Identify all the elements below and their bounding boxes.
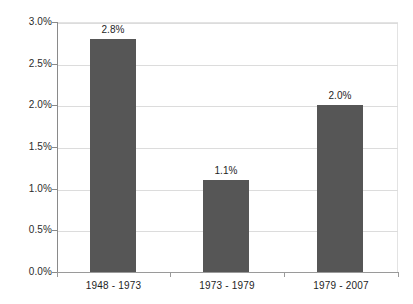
y-axis-label-1.0: 1.0% xyxy=(29,184,52,194)
bar-chart: 3.0% 2.5% 2.0% 1.5% 1.0% 0.5% 0.0% 2.8% … xyxy=(0,0,413,304)
bar-value-label-1973-1979: 1.1% xyxy=(203,165,249,176)
x-tick-mark-3 xyxy=(398,272,399,277)
bar-value-label-1979-2007: 2.0% xyxy=(317,90,363,101)
y-axis-label-0.5: 0.5% xyxy=(29,225,52,235)
y-tick-mark-1.5 xyxy=(52,147,57,148)
y-tick-mark-1.0 xyxy=(52,189,57,190)
y-tick-mark-0.5 xyxy=(52,230,57,231)
bar-1948-1973 xyxy=(90,39,136,272)
bar-value-label-1948-1973: 2.8% xyxy=(90,24,136,35)
y-axis-label-2.5: 2.5% xyxy=(29,59,52,69)
x-tick-mark-2 xyxy=(284,272,285,277)
y-axis-line xyxy=(57,22,58,273)
bar-1979-2007 xyxy=(317,105,363,272)
y-tick-mark-2.5 xyxy=(52,64,57,65)
x-axis-category-label-2: 1979 - 2007 xyxy=(284,280,398,291)
y-axis-label-0.0: 0.0% xyxy=(29,267,52,277)
x-axis-line xyxy=(57,272,399,273)
y-tick-mark-3.0 xyxy=(52,22,57,23)
y-axis-label-2.0: 2.0% xyxy=(29,100,52,110)
y-axis-label-3.0: 3.0% xyxy=(29,17,52,27)
y-axis-label-1.5: 1.5% xyxy=(29,142,52,152)
x-tick-mark-0 xyxy=(57,272,58,277)
x-axis-category-label-0: 1948 - 1973 xyxy=(57,280,170,291)
y-tick-mark-2.0 xyxy=(52,105,57,106)
x-axis-category-label-1: 1973 - 1979 xyxy=(170,280,284,291)
x-tick-mark-1 xyxy=(170,272,171,277)
bar-1973-1979 xyxy=(203,180,249,272)
